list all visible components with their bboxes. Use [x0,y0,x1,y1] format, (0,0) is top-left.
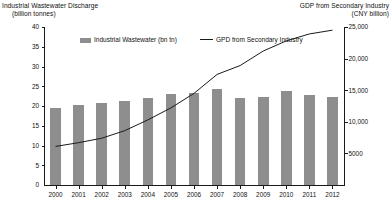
x-tick-label: 2012 [319,191,345,198]
left-tick-label: 5 [17,162,39,169]
right-tick-label: 25,000 [349,23,383,30]
x-tickmark [171,186,172,189]
x-tickmark [332,186,333,189]
x-tickmark [125,186,126,189]
x-tickmark [148,186,149,189]
chart-legend: Industrial Wastewater (bn tn) GPD from S… [0,0,391,12]
right-tickmark [345,153,348,154]
chart-container: Industrial Wastewater Discharge (billion… [0,0,391,215]
x-tickmark [286,186,287,189]
right-tick-label: 10,000 [349,118,383,125]
plot-area [44,27,344,185]
right-tick-label: 5000 [349,150,383,157]
left-tick-label: 25 [17,83,39,90]
right-tick-label: 15,000 [349,87,383,94]
right-tickmark [345,27,348,28]
x-tickmark [56,186,57,189]
left-tick-label: 15 [17,122,39,129]
left-tick-label: 30 [17,63,39,70]
right-tickmark [345,90,348,91]
left-tick-label: 10 [17,142,39,149]
x-tickmark [240,186,241,189]
right-tickmark [345,59,348,60]
left-tick-label: 35 [17,43,39,50]
right-tick-label: 20,000 [349,55,383,62]
x-tickmark [309,186,310,189]
x-tickmark [102,186,103,189]
left-tick-label: 20 [17,102,39,109]
x-tickmark [79,186,80,189]
x-tickmark [217,186,218,189]
x-tickmark [194,186,195,189]
right-tickmark [345,122,348,123]
left-tick-label: 40 [17,23,39,30]
x-tickmark [263,186,264,189]
gdp-line-path [56,30,333,146]
gdp-line-series [44,27,344,185]
right-axis-line [344,27,345,186]
left-tick-label: 0 [17,181,39,188]
